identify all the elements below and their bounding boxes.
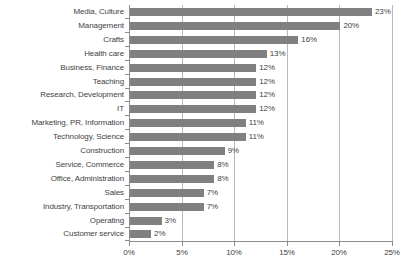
x-tick-label: 20% (319, 248, 359, 257)
bar-row: Sales7% (0, 186, 410, 200)
bar-row: Office, Administration8% (0, 172, 410, 186)
bar-row: Teaching12% (0, 75, 410, 89)
bar-value-label: 2% (154, 227, 165, 241)
y-tick (125, 18, 129, 19)
bar-value-label: 8% (217, 172, 228, 186)
bar-value-label: 9% (228, 144, 239, 158)
bar-value-label: 20% (343, 19, 359, 33)
bar-value-label: 12% (259, 61, 275, 75)
x-tick (392, 242, 393, 246)
bar-value-label: 7% (207, 186, 218, 200)
y-tick (125, 129, 129, 130)
x-tick-label: 15% (267, 248, 307, 257)
category-label: Customer service (0, 227, 124, 241)
x-tick-label: 25% (372, 248, 410, 257)
bar-value-label: 11% (249, 130, 264, 144)
category-label: Sales (0, 186, 124, 200)
bar-row: Marketing, PR, Information11% (0, 116, 410, 130)
bar (130, 50, 267, 58)
category-label: Office, Administration (0, 172, 124, 186)
y-tick (125, 227, 129, 228)
bar-value-label: 12% (259, 88, 275, 102)
bar (130, 22, 340, 30)
x-tick (182, 242, 183, 246)
bar (130, 91, 256, 99)
x-tick-label: 5% (162, 248, 202, 257)
y-tick (125, 46, 129, 47)
bar-row: Health care13% (0, 47, 410, 61)
y-tick (125, 32, 129, 33)
bar-row: Operating3% (0, 214, 410, 228)
bar-row: Construction9% (0, 144, 410, 158)
bar-row: Service, Commerce8% (0, 158, 410, 172)
bar (130, 189, 204, 197)
y-tick (125, 185, 129, 186)
category-label: Teaching (0, 75, 124, 89)
bar (130, 147, 225, 155)
bar-row: Technology, Science11% (0, 130, 410, 144)
bar-row: IT12% (0, 102, 410, 116)
bar-row: Industry, Transportation7% (0, 200, 410, 214)
category-label: Construction (0, 144, 124, 158)
bar (130, 105, 256, 113)
bar (130, 230, 151, 238)
category-label: Health care (0, 47, 124, 61)
category-label: Industry, Transportation (0, 200, 124, 214)
bar-value-label: 7% (207, 200, 218, 214)
bar (130, 203, 204, 211)
bar-value-label: 8% (217, 158, 228, 172)
category-label: Technology, Science (0, 130, 124, 144)
y-tick (125, 213, 129, 214)
x-tick (287, 242, 288, 246)
y-tick (125, 88, 129, 89)
category-label: Research, Development (0, 88, 124, 102)
bar-row: Management20% (0, 19, 410, 33)
y-tick (125, 60, 129, 61)
bar-row: Research, Development12% (0, 88, 410, 102)
bar-chart: 0%5%10%15%20%25% Media, Culture23%Manage… (0, 0, 410, 269)
bar-row: Customer service2% (0, 227, 410, 241)
y-tick (125, 143, 129, 144)
bar (130, 175, 214, 183)
category-label: IT (0, 102, 124, 116)
bar (130, 119, 246, 127)
category-label: Operating (0, 214, 124, 228)
bar (130, 36, 298, 44)
category-label: Service, Commerce (0, 158, 124, 172)
category-label: Marketing, PR, Information (0, 116, 124, 130)
bar-value-label: 23% (375, 5, 391, 19)
bar (130, 133, 246, 141)
y-tick (125, 171, 129, 172)
bar-value-label: 16% (301, 33, 317, 47)
bar-row: Crafts16% (0, 33, 410, 47)
bar-value-label: 3% (165, 214, 176, 228)
x-tick (234, 242, 235, 246)
bar (130, 78, 256, 86)
category-label: Management (0, 19, 124, 33)
x-tick-label: 0% (109, 248, 149, 257)
y-tick (125, 157, 129, 158)
category-label: Crafts (0, 33, 124, 47)
x-tick (339, 242, 340, 246)
category-label: Media, Culture (0, 5, 124, 19)
bar (130, 161, 214, 169)
bar-value-label: 12% (259, 102, 275, 116)
y-tick (125, 101, 129, 102)
bar-row: Business, Finance12% (0, 61, 410, 75)
y-tick (125, 199, 129, 200)
category-label: Business, Finance (0, 61, 124, 75)
bar (130, 64, 256, 72)
y-tick (125, 240, 129, 241)
x-tick (129, 242, 130, 246)
y-tick (125, 115, 129, 116)
bar-value-label: 13% (270, 47, 286, 61)
bar-row: Media, Culture23% (0, 5, 410, 19)
bar-value-label: 12% (259, 75, 275, 89)
bar (130, 217, 162, 225)
y-tick (125, 74, 129, 75)
bar-value-label: 11% (249, 116, 264, 130)
x-tick-label: 10% (214, 248, 254, 257)
bar (130, 8, 372, 16)
